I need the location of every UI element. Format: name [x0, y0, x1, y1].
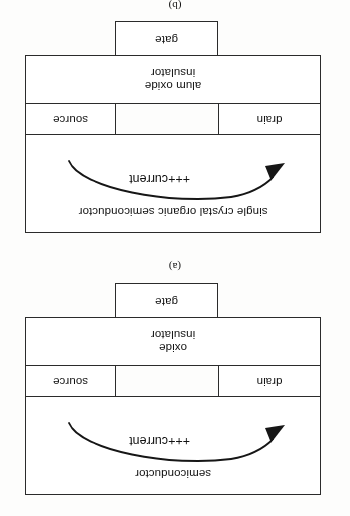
- drain-label-a: drain: [219, 375, 320, 388]
- gate-electrode-a: gate: [115, 283, 218, 317]
- gate-electrode-b: gate: [115, 21, 218, 55]
- insulator-layer-b: alum oxide insulator: [25, 55, 321, 104]
- source-contact-a: source: [25, 365, 116, 397]
- figure-a: semiconductor drain source oxide insulat…: [0, 258, 350, 495]
- current-arrow-label-b: +++current: [129, 172, 190, 186]
- insulator-layer-a: oxide insulator: [25, 317, 321, 366]
- figure-caption-b: (b): [0, 0, 350, 12]
- source-label-a: source: [26, 375, 115, 388]
- current-arrow-label-a: +++current: [129, 434, 190, 448]
- drain-contact-b: drain: [218, 103, 321, 135]
- scanned-page: semiconductor drain source oxide insulat…: [0, 0, 350, 516]
- device-cross-section-a: semiconductor drain source oxide insulat…: [25, 281, 321, 495]
- gate-label-a: gate: [116, 295, 217, 308]
- insulator-label-b: alum oxide insulator: [26, 66, 320, 92]
- figure-b: single crystal organic semiconductor dra…: [0, 0, 350, 233]
- semiconductor-label-b: single crystal organic semiconductor: [26, 205, 320, 218]
- semiconductor-label-a: semiconductor: [26, 467, 320, 480]
- device-cross-section-b: single crystal organic semiconductor dra…: [25, 20, 321, 233]
- insulator-label-a: oxide insulator: [26, 328, 320, 354]
- figure-caption-a: (a): [0, 261, 350, 273]
- gate-label-b: gate: [116, 33, 217, 46]
- source-label-b: source: [26, 113, 115, 126]
- drain-label-b: drain: [219, 113, 320, 126]
- drain-contact-a: drain: [218, 365, 321, 397]
- source-contact-b: source: [25, 103, 116, 135]
